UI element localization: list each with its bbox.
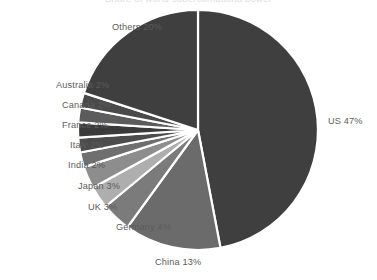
pie-chart-canvas — [0, 0, 377, 280]
pie-label-italy: Italy 2% — [70, 140, 104, 151]
pie-label-france: France 2% — [62, 120, 108, 131]
pie-label-uk: UK 3% — [88, 202, 117, 213]
pie-label-japan: Japan 3% — [78, 181, 120, 192]
pie-label-australia: Australia 2% — [56, 80, 109, 91]
pie-chart-figure: Share of world supercomputing power US 4… — [0, 0, 377, 280]
pie-label-india: India 2% — [68, 160, 105, 171]
pie-label-others: Others 20% — [112, 22, 162, 33]
pie-label-us: US 47% — [328, 116, 363, 127]
pie-label-china: China 13% — [155, 257, 201, 268]
pie-slice-us[interactable] — [198, 10, 318, 248]
pie-label-canada: Canada 2% — [62, 100, 111, 111]
pie-slices-group — [78, 10, 318, 250]
pie-label-germany: Germany 4% — [116, 222, 171, 233]
